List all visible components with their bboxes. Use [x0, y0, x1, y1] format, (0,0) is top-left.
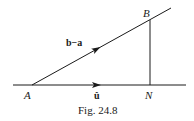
arrowhead-diagonal-icon	[91, 44, 102, 54]
point-label-a: A	[23, 89, 31, 101]
point-label-n: N	[144, 89, 153, 101]
vector-label-b-minus-a: b−a	[66, 37, 82, 48]
figure-diagram: A B N b−a û Fig. 24.8	[0, 0, 194, 121]
figure-caption: Fig. 24.8	[78, 104, 118, 116]
vector-label-u-hat: û	[94, 90, 100, 101]
point-label-b: B	[143, 7, 150, 19]
